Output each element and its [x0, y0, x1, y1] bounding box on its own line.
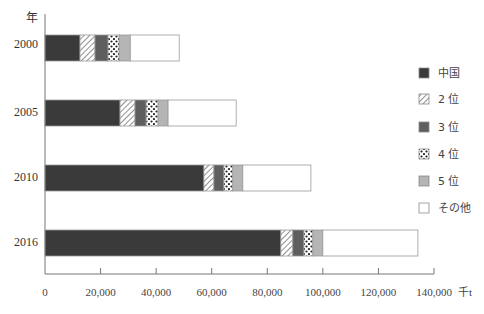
bar-row-2010: 2010: [14, 165, 311, 191]
bar-segment: [281, 230, 293, 256]
bar-segment: [224, 165, 233, 191]
legend-label: その他: [438, 202, 471, 215]
legend-label: 中国: [438, 67, 460, 80]
y-axis-unit-label: 年: [26, 11, 38, 25]
bar-segment: [120, 100, 135, 126]
x-tick-label: 140,000: [416, 286, 452, 298]
legend: 中国2 位3 位4 位5 位その他: [419, 67, 471, 215]
bar-segment: [130, 35, 179, 61]
legend-item: 5 位: [419, 174, 460, 188]
x-tick-label: 80,000: [252, 286, 283, 298]
legend-item: 2 位: [419, 92, 460, 106]
legend-label: 2 位: [438, 92, 460, 106]
y-tick-label: 2016: [14, 235, 38, 249]
bar-segment: [108, 35, 119, 61]
legend-item: 4 位: [419, 147, 460, 161]
y-tick-label: 2005: [14, 105, 38, 119]
bar-row-2005: 2005: [14, 100, 236, 126]
x-tick-label: 120,000: [361, 286, 397, 298]
legend-item: 3 位: [419, 120, 460, 134]
legend-swatch: [419, 94, 429, 104]
x-tick-label: 40,000: [141, 286, 172, 298]
x-tick-label: 60,000: [197, 286, 228, 298]
bar-row-2000: 2000: [14, 35, 179, 61]
legend-swatch: [419, 68, 429, 78]
legend-item: その他: [419, 202, 471, 215]
bar-segment: [80, 35, 95, 61]
bars-group: 2000200520102016: [14, 35, 418, 256]
bar-segment: [158, 100, 168, 126]
bar-row-2016: 2016: [14, 230, 418, 256]
bar-segment: [323, 230, 418, 256]
legend-swatch: [419, 176, 429, 186]
y-tick-label: 2010: [14, 170, 38, 184]
bar-segment: [168, 100, 236, 126]
x-tick-label: 100,000: [305, 286, 341, 298]
legend-swatch: [419, 122, 429, 132]
bar-segment: [45, 230, 281, 256]
x-axis-unit: 千t: [458, 286, 472, 298]
bar-segment: [95, 35, 108, 61]
legend-label: 3 位: [438, 120, 460, 134]
bar-segment: [135, 100, 146, 126]
bar-segment: [243, 165, 311, 191]
legend-label: 4 位: [438, 147, 460, 161]
bar-segment: [45, 165, 204, 191]
bar-segment: [146, 100, 158, 126]
x-tick-label: 20,000: [85, 286, 116, 298]
legend-label: 5 位: [438, 174, 460, 188]
y-tick-label: 2000: [14, 37, 38, 51]
legend-swatch: [419, 149, 429, 159]
bar-segment: [45, 100, 120, 126]
y-axis-unit: 年: [26, 11, 38, 25]
legend-item: 中国: [419, 67, 460, 80]
bar-segment: [45, 35, 80, 61]
stacked-bar-chart: 年 2000200520102016 020,00040,00060,00080…: [0, 0, 484, 314]
bar-segment: [233, 165, 243, 191]
bar-segment: [204, 165, 214, 191]
bar-segment: [304, 230, 313, 256]
bar-segment: [119, 35, 130, 61]
legend-swatch: [419, 203, 429, 213]
bar-segment: [313, 230, 323, 256]
x-tick-label: 0: [42, 286, 48, 298]
bar-segment: [214, 165, 224, 191]
bar-segment: [293, 230, 304, 256]
